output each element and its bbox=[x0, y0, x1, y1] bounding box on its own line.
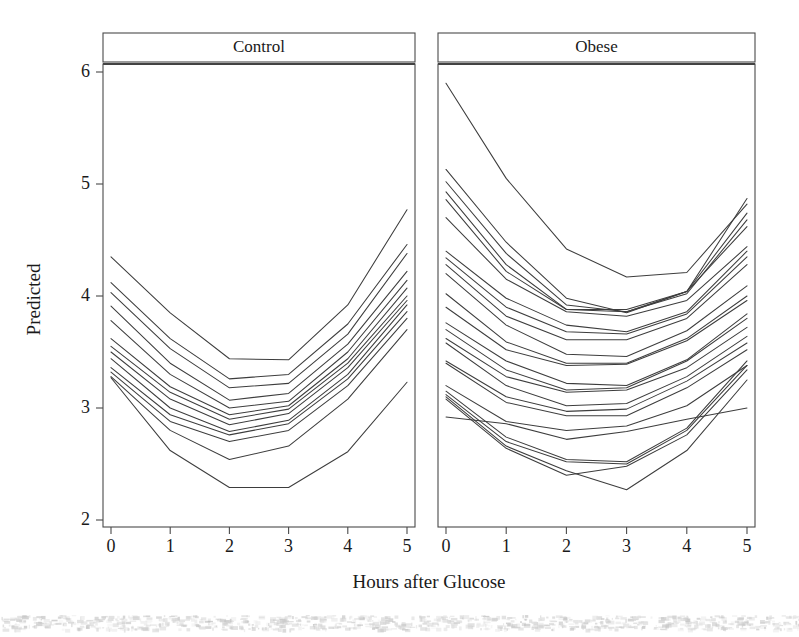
series-line bbox=[446, 218, 747, 317]
panel-control: Control012345 bbox=[103, 33, 415, 556]
y-axis: 23456 bbox=[81, 61, 103, 529]
series-line bbox=[446, 192, 747, 312]
x-tick-label: 4 bbox=[343, 536, 352, 556]
x-tick-label: 0 bbox=[107, 536, 116, 556]
x-tick-label: 2 bbox=[225, 536, 234, 556]
series-line bbox=[446, 380, 747, 490]
y-tick-label: 3 bbox=[81, 397, 90, 417]
x-tick-label: 0 bbox=[442, 536, 451, 556]
y-tick-label: 5 bbox=[81, 173, 90, 193]
x-tick-label: 1 bbox=[502, 536, 511, 556]
series-line bbox=[446, 83, 747, 277]
panel-obese: Obese012345 bbox=[438, 33, 755, 556]
x-tick-label: 3 bbox=[622, 536, 631, 556]
series-line bbox=[446, 169, 747, 312]
series-line bbox=[446, 343, 747, 411]
series-line bbox=[446, 200, 747, 310]
chart-canvas: Control012345Obese01234523456PredictedHo… bbox=[0, 0, 799, 637]
panel-frame bbox=[103, 64, 415, 527]
y-axis-title: Predicted bbox=[23, 263, 44, 335]
x-tick-label: 5 bbox=[403, 536, 412, 556]
series-line bbox=[446, 361, 747, 462]
series-line bbox=[111, 318, 407, 441]
x-axis-title: Hours after Glucose bbox=[352, 571, 505, 592]
y-tick-label: 6 bbox=[81, 61, 90, 81]
y-tick-label: 4 bbox=[81, 285, 90, 305]
series-line bbox=[111, 378, 407, 488]
series-line bbox=[111, 210, 407, 360]
series-line bbox=[111, 253, 407, 387]
y-tick-label: 2 bbox=[81, 509, 90, 529]
x-tick-label: 2 bbox=[562, 536, 571, 556]
panel-strip-label: Obese bbox=[575, 37, 617, 56]
x-tick-label: 1 bbox=[166, 536, 175, 556]
panel-frame bbox=[438, 64, 755, 527]
x-tick-label: 4 bbox=[682, 536, 691, 556]
x-tick-label: 3 bbox=[284, 536, 293, 556]
trellis-chart-figure: Control012345Obese01234523456PredictedHo… bbox=[0, 0, 799, 637]
series-line bbox=[446, 370, 747, 475]
panel-strip-label: Control bbox=[233, 37, 285, 56]
series-line bbox=[446, 365, 747, 464]
x-tick-label: 5 bbox=[743, 536, 752, 556]
series-line bbox=[111, 244, 407, 378]
series-line bbox=[446, 318, 747, 390]
